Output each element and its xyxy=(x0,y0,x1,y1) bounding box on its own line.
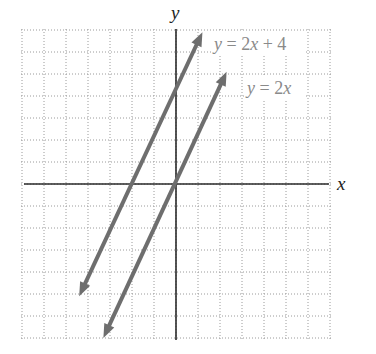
series-layer xyxy=(79,32,226,338)
equation-label-y-equals-2x-plus-4: y = 2x + 4 xyxy=(212,34,286,54)
coordinate-plane: y x y = 2x + 4 y = 2x xyxy=(0,0,376,354)
arrowhead-top-icon xyxy=(191,32,202,47)
equation-label-y-equals-2x: y = 2x xyxy=(245,78,291,98)
arrowhead-bottom-icon xyxy=(103,323,114,338)
arrowhead-top-icon xyxy=(216,72,227,87)
y-axis-label: y xyxy=(169,2,180,23)
x-axis-label: x xyxy=(336,173,346,194)
